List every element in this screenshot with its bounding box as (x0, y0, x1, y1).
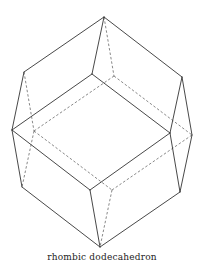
hidden-edge-M-H (112, 135, 192, 190)
visible-edge-F-L (170, 133, 180, 192)
visible-edges (12, 17, 192, 247)
hidden-edge-D-G (34, 76, 114, 131)
hidden-edge-T-D (104, 17, 114, 76)
visible-edge-K-Bt (22, 187, 100, 247)
visible-edge-T-C (104, 17, 182, 77)
visible-edge-F-J (90, 133, 170, 190)
visible-edge-C-F (170, 77, 182, 133)
visible-edge-E-J (12, 130, 90, 190)
figure-caption: rhombic dodecahedron (0, 252, 204, 262)
rhombic-dodecahedron-diagram (0, 0, 204, 269)
hidden-edge-G-M (34, 131, 112, 190)
hidden-edge-A-G (24, 72, 34, 131)
visible-edge-J-Bt (90, 190, 100, 247)
visible-edge-T-A (24, 17, 104, 72)
visible-edge-B-F (92, 74, 170, 133)
visible-edge-E-K (12, 130, 22, 187)
hidden-edges (22, 17, 192, 247)
visible-edge-A-E (12, 72, 24, 130)
visible-edge-T-B (92, 17, 104, 74)
visible-edge-B-E (12, 74, 92, 130)
visible-edge-C-H (182, 77, 192, 135)
visible-edge-H-L (180, 135, 192, 192)
hidden-edge-M-Bt (100, 190, 112, 247)
visible-edge-L-Bt (100, 192, 180, 247)
